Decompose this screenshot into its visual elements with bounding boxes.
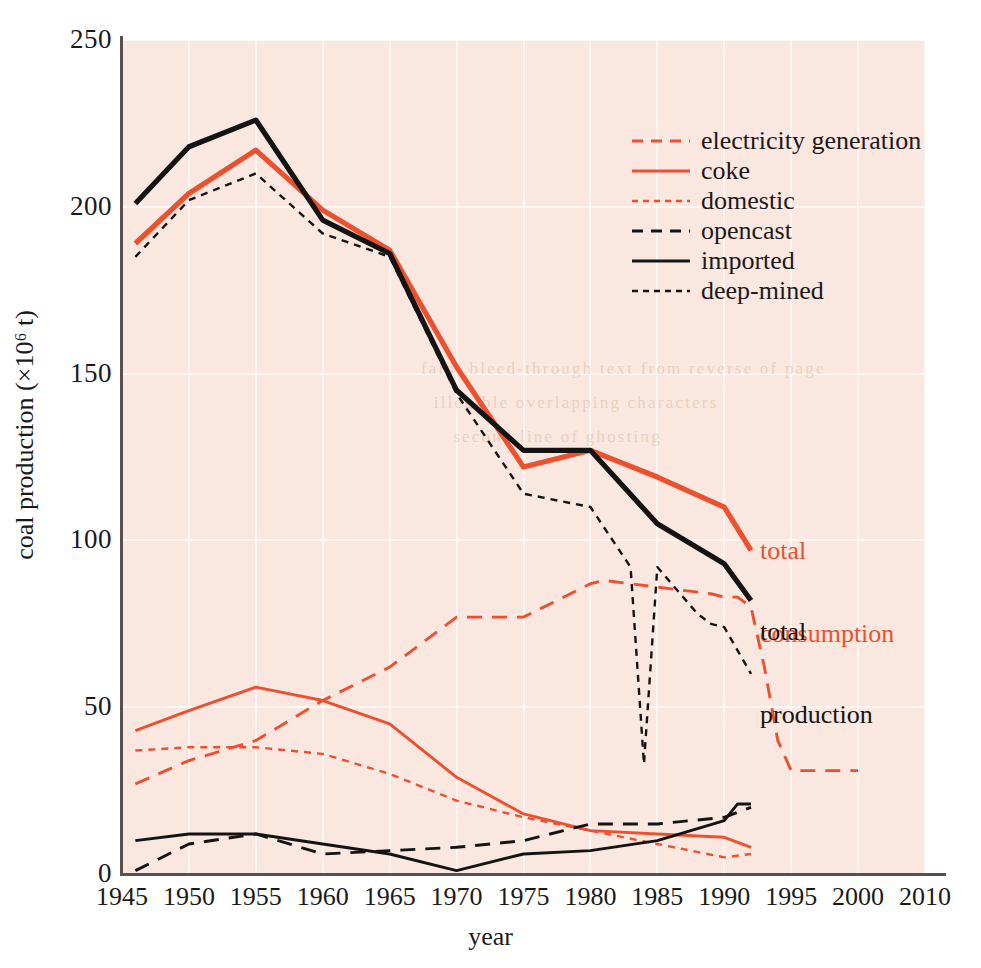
legend-swatch-icon (632, 132, 690, 150)
legend-item-opencast[interactable]: opencast (632, 216, 921, 246)
legend-item-domestic[interactable]: domestic (632, 186, 921, 216)
annotation-total-consumption-line1: total (760, 537, 894, 565)
annotation-total-production-line2: production (760, 701, 873, 729)
series-line-electricity-generation (135, 580, 858, 784)
legend-label: deep-mined (701, 278, 824, 304)
legend-label: imported (701, 248, 795, 274)
legend-label: electricity generation (701, 128, 921, 154)
legend-swatch-icon (632, 192, 690, 210)
series-line-imported (135, 804, 751, 871)
legend-item-deep-mined[interactable]: deep-mined (632, 276, 921, 306)
annotation-total-production: total production (760, 562, 873, 785)
legend-item-electricity-generation[interactable]: electricity generation (632, 126, 921, 156)
legend-item-coke[interactable]: coke (632, 156, 921, 186)
legend-swatch-icon (632, 282, 690, 300)
legend-swatch-icon (632, 222, 690, 240)
legend-swatch-icon (632, 162, 690, 180)
legend: electricity generationcokedomesticopenca… (632, 126, 921, 306)
chart-figure: faint bleed-through text from reverse of… (0, 0, 981, 968)
legend-item-imported[interactable]: imported (632, 246, 921, 276)
legend-label: opencast (701, 218, 792, 244)
legend-swatch-icon (632, 252, 690, 270)
legend-label: coke (701, 158, 750, 184)
annotation-total-production-line1: total (760, 618, 873, 646)
legend-label: domestic (701, 188, 795, 214)
